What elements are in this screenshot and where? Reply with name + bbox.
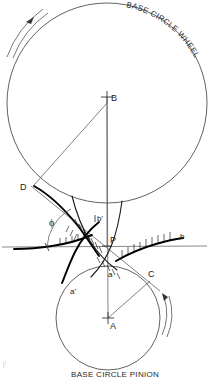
radius-pinion-to-C	[108, 281, 150, 318]
label-tangent-C: C	[148, 269, 155, 279]
diagram-canvas: B A D C P ϕ a a' b b' BASE CIRCLE WHEEL …	[0, 0, 209, 381]
label-profile-a: a	[108, 270, 113, 279]
label-profile-a-prime: a'	[70, 287, 76, 296]
involute-gear-diagram: B A D C P ϕ a a' b b' BASE CIRCLE WHEEL …	[0, 0, 209, 381]
radius-wheel-to-D	[34, 103, 107, 185]
rotation-arrowhead-pinion	[162, 293, 168, 301]
rotation-arrow-pinion	[162, 297, 167, 335]
title-wheel-text: BASE CIRCLE WHEEL	[125, 0, 201, 60]
rotation-arrow-pinion-outer	[167, 296, 172, 337]
rotation-arrow-wheel-outer	[7, 9, 43, 57]
label-profile-b-prime: b'	[97, 214, 103, 223]
label-tangent-D: D	[20, 182, 27, 192]
profile-b	[116, 238, 183, 261]
hatch-upper-left-stub	[66, 226, 77, 240]
label-pressure-angle: ϕ	[49, 217, 54, 228]
profile-conjugate-upper	[72, 196, 117, 270]
title-base-circle-wheel: BASE CIRCLE WHEEL	[125, 0, 201, 60]
line-of-action	[31, 186, 160, 291]
label-center-pinion: A	[110, 321, 116, 331]
title-base-circle-pinion: BASE CIRCLE PINION	[71, 370, 159, 379]
label-profile-b: b	[180, 232, 185, 241]
hatch-upper-left	[75, 219, 102, 253]
label-pitch-point: P	[110, 235, 116, 245]
label-center-wheel: B	[111, 93, 117, 103]
corner-artifact	[3, 360, 6, 368]
